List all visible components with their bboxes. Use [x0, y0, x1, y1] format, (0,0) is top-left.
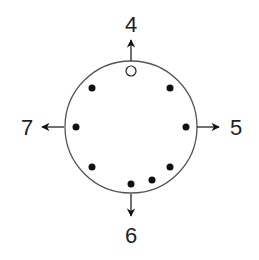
point-bottom-center [128, 181, 135, 188]
diagram-canvas: 4 5 6 7 [0, 0, 259, 260]
label-right: 5 [230, 115, 242, 140]
label-up: 4 [125, 12, 137, 37]
label-left: 7 [21, 115, 33, 140]
point-bottom-center-right [149, 177, 156, 184]
label-down: 6 [125, 223, 137, 248]
open-point-top [126, 66, 136, 76]
point-bottom-left [89, 164, 96, 171]
point-top-left [89, 85, 96, 92]
point-bottom-right [167, 164, 174, 171]
point-top-right [167, 85, 174, 92]
main-circle [65, 61, 197, 193]
point-left [73, 124, 80, 131]
point-right [183, 124, 190, 131]
